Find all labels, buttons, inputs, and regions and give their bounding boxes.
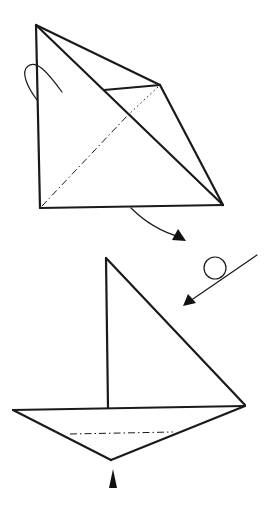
hidden-edge-line: [128, 87, 158, 115]
curved-move-arrow-icon: [131, 208, 180, 237]
hull-valley-fold-line: [70, 432, 173, 434]
hull-left-edge: [13, 410, 111, 460]
flap-inner-crease: [104, 85, 160, 90]
turn-over-circle-icon: [204, 257, 226, 279]
turn-over-loop-icon: [25, 64, 62, 100]
hull-top-edge: [13, 406, 245, 410]
square-left-edge: [36, 25, 40, 208]
step-sailboat: [13, 255, 257, 488]
square-diagonal-fold: [36, 25, 223, 205]
sail-mast-edge: [106, 258, 108, 408]
square-bottom-edge: [40, 205, 223, 208]
flap-top-edge: [36, 25, 160, 85]
origami-diagram: [0, 0, 269, 517]
valley-fold-line: [42, 115, 128, 206]
flap-right-edge: [160, 85, 223, 205]
push-arrow-up-icon: [109, 469, 117, 488]
turn-over-arrow-head-icon: [183, 294, 196, 306]
step-folded-square: [25, 25, 223, 241]
sail-diagonal-edge: [106, 258, 245, 405]
